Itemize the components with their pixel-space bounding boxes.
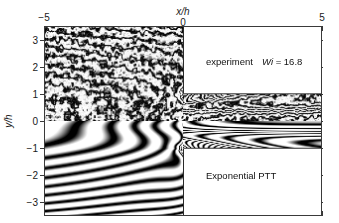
y-tick-label-minus2: −2 [20,170,38,181]
annotation-experiment: experiment [206,56,253,67]
y-axis-title: y/h [3,114,14,127]
annotation-weissenberg-number: Wi = 16.8 [262,56,302,67]
weissenberg-value: = 16.8 [273,56,302,67]
x-axis-title: x/h [176,6,189,17]
y-tick-label-3: 3 [24,35,38,46]
y-tick-label-minus1: −1 [20,143,38,154]
weissenberg-symbol: Wi [262,56,273,67]
x-tick-label-minus5: −5 [38,12,49,23]
y-tick-label-2: 2 [24,62,38,73]
x-tick-mark-5-bottom [322,211,323,216]
x-tick-label-5: 5 [319,12,325,23]
x-tick-mark-5-top [322,26,323,31]
y-tick-label-1: 1 [24,89,38,100]
annotation-exponential-ptt: Exponential PTT [206,170,276,181]
y-tick-label-minus3: −3 [20,197,38,208]
y-tick-label-0: 0 [24,116,38,127]
plot-area [44,26,322,216]
figure-root: x/h y/h −5 0 5 3 2 1 0 −1 −2 −3 experime… [0,0,339,223]
